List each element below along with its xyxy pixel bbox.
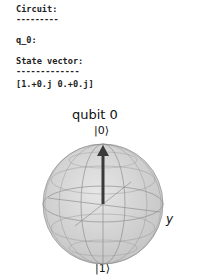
bloch-sphere — [0, 0, 216, 280]
